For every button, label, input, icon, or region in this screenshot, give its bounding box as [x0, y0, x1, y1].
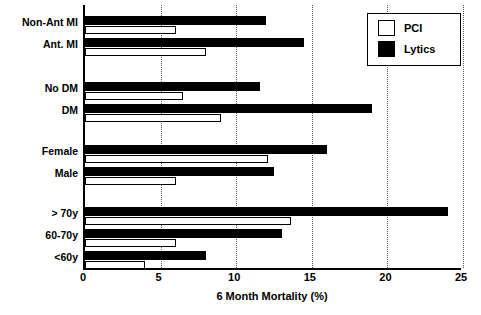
bar-lytics	[85, 104, 372, 113]
category-label-no-dm: No DM	[45, 83, 78, 94]
category-label-ant-mi: Ant. MI	[43, 39, 78, 50]
bar-lytics	[85, 38, 304, 47]
bar-pci	[85, 217, 291, 225]
category-label-70y: > 70y	[51, 208, 78, 219]
bar-lytics	[85, 251, 206, 260]
category-label-60-70y: 60-70y	[45, 230, 78, 241]
bar-pci	[85, 114, 221, 122]
bar-pci	[85, 48, 206, 56]
bar-pci	[85, 177, 176, 185]
y-axis-category-labels: Non-Ant MIAnt. MINo DMDMFemaleMale> 70y6…	[0, 5, 80, 270]
x-tick-0: 0	[80, 272, 86, 283]
gridline-25	[463, 5, 464, 268]
x-axis-tick-labels: 0510152025	[83, 272, 461, 288]
bar-lytics	[85, 207, 448, 216]
legend-swatch-lytics-icon	[378, 41, 395, 57]
bar-pci	[85, 239, 176, 247]
bar-lytics	[85, 229, 282, 238]
bar-pci	[85, 26, 176, 34]
bar-pci	[85, 155, 268, 163]
x-tick-15: 15	[304, 272, 316, 283]
legend-item-lytics: Lytics	[378, 41, 435, 57]
bar-lytics	[85, 82, 260, 91]
category-label-male: Male	[55, 168, 78, 179]
category-label-60y: <60y	[54, 252, 78, 263]
legend-label-pci: PCI	[404, 23, 422, 34]
category-label-dm: DM	[62, 105, 78, 116]
bar-pci	[85, 92, 183, 100]
chart-container: Non-Ant MIAnt. MINo DMDMFemaleMale> 70y6…	[0, 0, 481, 315]
x-tick-10: 10	[228, 272, 240, 283]
category-label-non-ant-mi: Non-Ant MI	[22, 17, 78, 28]
bar-pci	[85, 261, 145, 269]
legend: PCI Lytics	[367, 13, 461, 66]
bar-lytics	[85, 167, 274, 176]
category-label-female: Female	[42, 146, 78, 157]
legend-label-lytics: Lytics	[404, 44, 435, 55]
x-tick-5: 5	[156, 272, 162, 283]
bar-lytics	[85, 145, 327, 154]
legend-item-pci: PCI	[378, 20, 422, 36]
x-tick-25: 25	[455, 272, 467, 283]
x-tick-20: 20	[379, 272, 391, 283]
gridline-15	[312, 5, 313, 268]
x-axis-title: 6 Month Mortality (%)	[83, 290, 461, 302]
bar-lytics	[85, 16, 266, 25]
legend-swatch-pci-icon	[378, 20, 395, 36]
